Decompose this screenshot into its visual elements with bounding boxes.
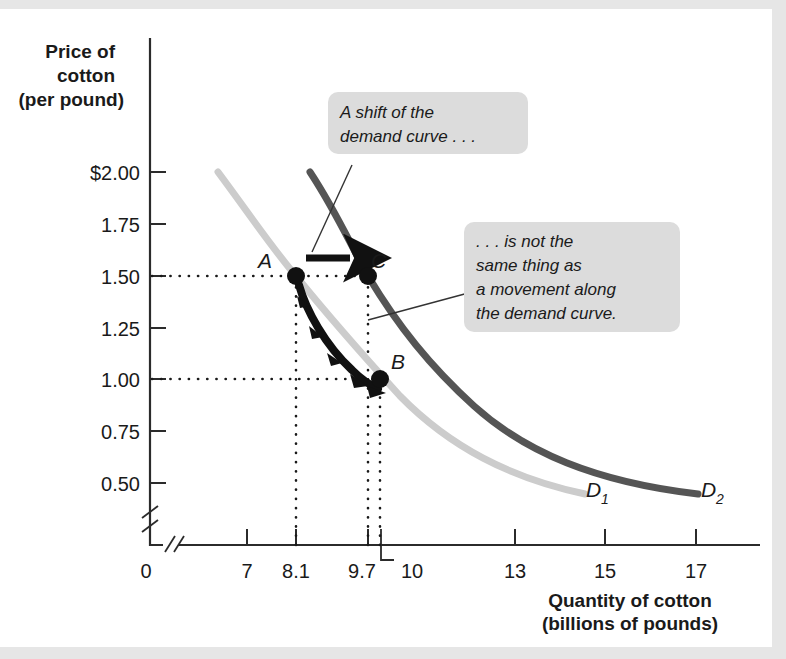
x-axis-ticks bbox=[247, 529, 696, 545]
x-tick-label-15: 15 bbox=[594, 560, 616, 582]
x-axis-title-line-1: Quantity of cotton bbox=[548, 590, 712, 611]
point-label-c: C bbox=[371, 249, 387, 272]
curve-label-d2-subscript: 2 bbox=[715, 491, 724, 507]
y-axis-title-line-2: cotton bbox=[57, 65, 115, 86]
y-tick-label-1-00: 1.00 bbox=[101, 369, 140, 391]
shift-callout-line-2: demand curve . . . bbox=[340, 127, 476, 146]
x-tick-label-8-1: 8.1 bbox=[282, 560, 310, 582]
curve-label-d1-subscript: 1 bbox=[601, 491, 609, 507]
curve-label-d2: D 2 bbox=[701, 478, 724, 507]
y-tick-label-1-50: 1.50 bbox=[101, 266, 140, 288]
x-tick-label-9-7: 9.7 bbox=[348, 560, 376, 582]
data-point-b[interactable] bbox=[371, 370, 389, 388]
x-axis-title-line-2: (billions of pounds) bbox=[542, 613, 718, 634]
x-tick-label-13: 13 bbox=[504, 560, 526, 582]
shift-callout[interactable]: A shift of the demand curve . . . bbox=[328, 92, 528, 154]
page-edge-band-bottom bbox=[0, 647, 786, 659]
demand-shift-chart: $2.00 1.75 1.50 1.25 1.00 0.75 0.50 0 7 … bbox=[0, 0, 786, 659]
y-axis-tick-labels: $2.00 1.75 1.50 1.25 1.00 0.75 0.50 bbox=[90, 162, 140, 495]
guide-lines bbox=[152, 276, 380, 545]
y-tick-label-1-25: 1.25 bbox=[101, 318, 140, 340]
data-point-a[interactable] bbox=[287, 267, 305, 285]
point-label-b: B bbox=[391, 350, 405, 373]
point-label-a: A bbox=[256, 249, 272, 272]
x-axis-tick-labels: 0 7 8.1 9.7 10 13 15 17 bbox=[140, 560, 707, 582]
movement-callout[interactable]: . . . is not the same thing as a movemen… bbox=[464, 222, 680, 332]
y-axis-title-line-3: (per pound) bbox=[18, 89, 124, 110]
y-axis-ticks bbox=[150, 172, 166, 483]
x-tick-label-0: 0 bbox=[140, 560, 151, 582]
y-axis-title: Price of cotton (per pound) bbox=[18, 41, 124, 110]
y-tick-label-0-75: 0.75 bbox=[101, 421, 140, 443]
x-tick-label-10: 10 bbox=[401, 560, 423, 582]
x-tick-label-7: 7 bbox=[241, 560, 252, 582]
curve-label-d1: D 1 bbox=[586, 478, 609, 507]
movement-callout-line-2: same thing as bbox=[476, 256, 582, 275]
page-edge-band-top bbox=[0, 0, 786, 9]
curve-label-d2-letter: D bbox=[701, 478, 716, 501]
page-edge-band-right bbox=[772, 0, 786, 659]
curve-label-d1-letter: D bbox=[586, 478, 601, 501]
y-axis-title-line-1: Price of bbox=[45, 41, 115, 62]
figure-canvas: $2.00 1.75 1.50 1.25 1.00 0.75 0.50 0 7 … bbox=[0, 0, 786, 659]
movement-callout-line-1: . . . is not the bbox=[476, 232, 573, 251]
movement-callout-line-3: a movement along bbox=[476, 280, 616, 299]
x-axis-title: Quantity of cotton (billions of pounds) bbox=[542, 590, 718, 634]
shift-callout-line-1: A shift of the bbox=[339, 103, 434, 122]
y-tick-label-1-75: 1.75 bbox=[101, 214, 140, 236]
y-tick-label-0-50: 0.50 bbox=[101, 473, 140, 495]
y-tick-label-2-00: $2.00 bbox=[90, 162, 140, 184]
x-tick-label-17: 17 bbox=[685, 560, 707, 582]
movement-callout-line-4: the demand curve. bbox=[476, 304, 617, 323]
movement-arrow bbox=[299, 285, 378, 389]
